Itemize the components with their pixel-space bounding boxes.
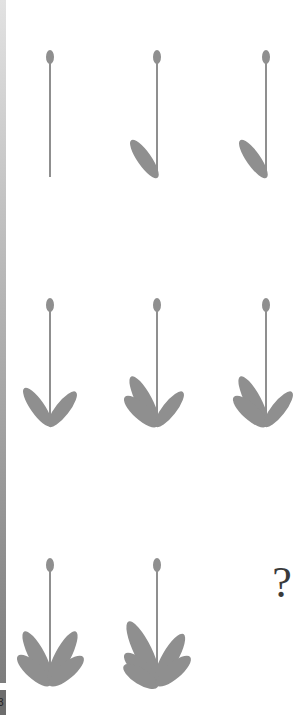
stem (49, 310, 51, 425)
bud-icon (46, 558, 54, 572)
stem (49, 570, 51, 670)
cell-r3c1-figure (12, 558, 88, 691)
puzzle-grid (0, 0, 302, 715)
stem (265, 310, 267, 425)
stem (156, 62, 158, 177)
stem (49, 62, 51, 177)
bud-icon (262, 50, 270, 64)
cell-r2c3-figure (228, 298, 297, 432)
bud-icon (262, 298, 270, 312)
bud-icon (153, 50, 161, 64)
cell-r1c1-figure (46, 50, 54, 177)
bud-icon (46, 50, 54, 64)
cell-r1c3-figure (234, 50, 272, 182)
bud-icon (153, 298, 161, 312)
missing-answer-question-mark: ? (268, 558, 296, 608)
cell-r2c2-figure (119, 298, 188, 432)
bud-icon (46, 298, 54, 312)
cell-r1c2-figure (125, 50, 163, 182)
cell-r3c2-figure (119, 558, 195, 694)
stem (265, 62, 267, 177)
leaf-icon (43, 388, 81, 431)
stem (156, 310, 158, 425)
stem (156, 570, 158, 670)
cell-r2c1-figure (18, 298, 81, 431)
bud-icon (153, 558, 161, 572)
